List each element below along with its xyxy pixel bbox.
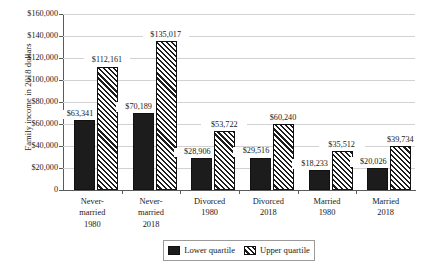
bar-lower-quartile [191,158,212,190]
y-tick-label: $120,000 [0,54,58,62]
y-tick-label: $160,000 [0,10,58,18]
category-label: Married2018 [351,196,421,219]
category-label-line: 2018 [116,219,186,230]
bar-upper-quartile [97,67,118,190]
bar-lower-quartile [74,120,95,190]
bar-lower-quartile [250,158,271,190]
y-tick-label: $100,000 [0,76,58,84]
x-tick-mark [298,190,299,194]
legend-label-lower-quartile: Lower quartile [184,246,235,255]
bar-group: $28,906$53,722 [185,14,244,190]
bar-upper-quartile [156,41,177,190]
bar-chart: Family income in 2018 dollars $160,000$1… [0,0,424,276]
bar-label-upper-quartile: $35,512 [319,140,365,150]
bar-lower-quartile [133,113,154,190]
y-tick-label: $40,000 [0,142,58,150]
x-tick-mark [356,190,357,194]
legend-label-upper-quartile: Upper quartile [260,246,310,255]
bar-lower-quartile [309,170,330,190]
bar-label-upper-quartile: $60,240 [260,113,306,123]
bar-upper-quartile [273,124,294,190]
y-tick-label: $80,000 [0,98,58,106]
bar-group: $70,189$135,017 [127,14,186,190]
x-tick-mark [180,190,181,194]
y-tick-label: $20,000 [0,164,58,172]
y-tick-label: $140,000 [0,32,58,40]
category-label-line: 2018 [351,207,421,218]
legend-item-lower-quartile: Lower quartile [168,246,235,255]
category-label-line: Married [351,196,421,207]
bar-group: $20,026$39,734 [361,14,420,190]
y-tick-label: $60,000 [0,120,58,128]
plot-area: $63,341$112,161$70,189$135,017$28,906$53… [63,14,415,190]
bar-upper-quartile [214,131,235,190]
bar-upper-quartile [390,146,411,190]
bar-lower-quartile [367,168,388,190]
bar-label-upper-quartile: $53,722 [201,120,247,130]
bar-label-upper-quartile: $39,734 [377,136,423,146]
bar-label-upper-quartile: $112,161 [84,56,130,66]
legend-item-upper-quartile: Upper quartile [244,246,310,255]
bar-label-upper-quartile: $135,017 [143,31,189,41]
x-tick-mark [122,190,123,194]
legend-swatch-lower-quartile [168,246,180,255]
x-tick-mark [239,190,240,194]
chart-legend: Lower quartile Upper quartile [163,240,315,261]
legend-swatch-upper-quartile [244,246,256,255]
y-tick-label: 0 [0,186,58,194]
